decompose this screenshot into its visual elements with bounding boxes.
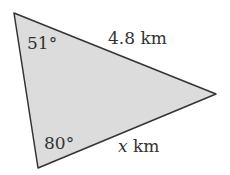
side-label-bottom: x km: [118, 138, 159, 155]
side-bottom-unit: km: [133, 136, 159, 156]
triangle-diagram: 51° 4.8 km 80° x km: [0, 0, 230, 175]
side-label-top: 4.8 km: [108, 30, 167, 47]
side-top-value: 4.8: [108, 28, 135, 48]
side-top-unit: km: [140, 28, 166, 48]
angle-label-top-left: 51°: [27, 35, 57, 52]
side-bottom-variable: x: [118, 136, 128, 156]
angle-label-bottom-left: 80°: [44, 135, 74, 152]
triangle-shape: [0, 0, 230, 175]
